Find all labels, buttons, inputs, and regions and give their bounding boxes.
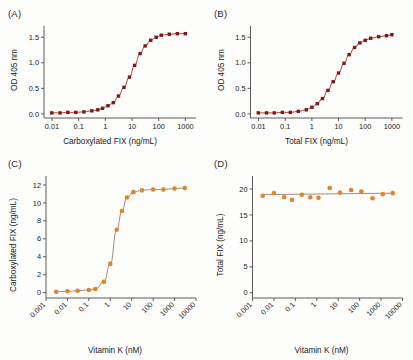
svg-text:0.1: 0.1	[283, 300, 297, 314]
panel-a: (A) 0.00.51.01.50.010.11101001000 Carbox…	[0, 0, 206, 150]
svg-text:1000: 1000	[158, 300, 176, 318]
figure-container: (A) 0.00.51.01.50.010.11101001000 Carbox…	[0, 0, 413, 360]
svg-text:5: 5	[243, 262, 247, 271]
svg-text:0.5: 0.5	[29, 84, 39, 93]
svg-text:12: 12	[33, 181, 41, 190]
panel-d-yaxis-title: Total FIX (ng/mL)	[216, 213, 225, 276]
panel-d: (D) 051015200.0010.010.1110100100010000 …	[206, 150, 413, 360]
svg-text:1.0: 1.0	[235, 58, 245, 67]
svg-text:8: 8	[37, 216, 41, 225]
svg-text:0.0: 0.0	[29, 110, 39, 119]
svg-text:0: 0	[37, 288, 41, 297]
svg-text:0.01: 0.01	[251, 122, 265, 131]
panel-a-plot: 0.00.51.01.50.010.11101001000 Carboxylat…	[0, 0, 206, 150]
svg-text:10: 10	[121, 300, 133, 312]
panel-c: (C) 0246810120.0010.010.1110100100010000…	[0, 150, 206, 360]
svg-text:100: 100	[346, 300, 361, 315]
panel-c-svg: 0246810120.0010.010.1110100100010000 Vit…	[0, 150, 206, 360]
panel-a-yaxis-title: OD 405 nm	[10, 49, 19, 91]
panel-c-xaxis-title: Vitamin K (nM)	[88, 346, 142, 355]
svg-text:1.0: 1.0	[29, 58, 39, 67]
panel-b-yaxis-title: OD 405 nm	[217, 49, 226, 91]
svg-text:1: 1	[102, 300, 111, 309]
panel-b-xaxis-title: Total FIX (ng/mL)	[285, 137, 348, 146]
svg-text:100: 100	[153, 122, 165, 131]
svg-text:1000: 1000	[364, 300, 382, 318]
panel-b: (B) 0.00.51.01.50.010.11101001000 Total …	[206, 0, 413, 150]
svg-text:0.1: 0.1	[280, 122, 290, 131]
svg-text:10000: 10000	[177, 300, 198, 321]
svg-text:10: 10	[334, 122, 342, 131]
panel-a-xaxis-title: Carboxylated FIX (ng/mL)	[63, 137, 157, 146]
panel-c-plot: 0246810120.0010.010.1110100100010000 Vit…	[0, 150, 206, 360]
panel-d-svg: 051015200.0010.010.1110100100010000 Vita…	[206, 150, 413, 360]
panel-c-yaxis-title: Carboxylated FIX (ng/mL)	[9, 198, 18, 292]
panel-b-plot: 0.00.51.01.50.010.11101001000 Total FIX …	[206, 0, 413, 150]
panel-d-xaxis-title: Vitamin K (nM)	[295, 346, 349, 355]
svg-text:1: 1	[310, 122, 314, 131]
svg-text:1000: 1000	[177, 122, 193, 131]
svg-text:1.5: 1.5	[235, 33, 245, 42]
svg-text:20: 20	[239, 185, 247, 194]
svg-text:10: 10	[33, 199, 41, 208]
svg-text:1: 1	[103, 122, 107, 131]
svg-text:10: 10	[327, 300, 339, 312]
svg-text:0.1: 0.1	[77, 300, 91, 314]
svg-text:0.5: 0.5	[235, 84, 245, 93]
svg-text:0.01: 0.01	[259, 300, 276, 317]
svg-text:10: 10	[239, 236, 247, 245]
svg-text:0.001: 0.001	[28, 300, 47, 319]
svg-text:1000: 1000	[384, 122, 400, 131]
svg-text:2: 2	[37, 270, 41, 279]
panel-d-plot: 051015200.0010.010.1110100100010000 Vita…	[206, 150, 413, 360]
svg-text:10: 10	[128, 122, 136, 131]
svg-text:4: 4	[37, 252, 41, 261]
svg-text:100: 100	[139, 300, 154, 315]
panel-a-svg: 0.00.51.01.50.010.11101001000 Carboxylat…	[0, 0, 206, 150]
svg-text:15: 15	[239, 211, 247, 220]
panel-b-svg: 0.00.51.01.50.010.11101001000 Total FIX …	[206, 0, 413, 150]
svg-text:100: 100	[359, 122, 371, 131]
svg-text:1.5: 1.5	[29, 33, 39, 42]
svg-text:0.01: 0.01	[52, 300, 69, 317]
svg-text:0.001: 0.001	[234, 300, 253, 319]
svg-text:10000: 10000	[383, 300, 404, 321]
svg-text:0.1: 0.1	[74, 122, 84, 131]
svg-text:0.0: 0.0	[235, 110, 245, 119]
svg-text:0.01: 0.01	[45, 122, 59, 131]
svg-text:0: 0	[243, 288, 247, 297]
svg-text:1: 1	[309, 300, 318, 309]
svg-text:6: 6	[37, 234, 41, 243]
